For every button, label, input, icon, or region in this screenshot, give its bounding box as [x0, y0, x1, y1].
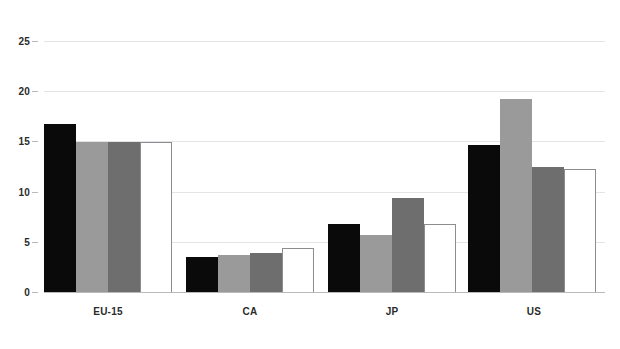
y-tick-mark-10 — [32, 192, 38, 193]
y-tick-mark-25 — [32, 41, 38, 42]
bar-ca-series-3 — [250, 253, 282, 292]
x-label-ca: CA — [243, 306, 258, 317]
bar-eu15-series-4 — [140, 142, 172, 292]
bar-jp-series-4 — [424, 224, 456, 292]
bar-jp-series-3 — [392, 198, 424, 292]
bar-ca-series-4 — [282, 248, 314, 292]
axis-baseline — [44, 292, 605, 293]
bar-eu15-series-1 — [44, 124, 76, 292]
bar-eu15-series-3 — [108, 142, 140, 292]
y-tick-mark-15 — [32, 141, 38, 142]
y-tick-label-10: 10 — [18, 186, 30, 197]
bar-ca-series-1 — [186, 257, 218, 292]
plot-area — [44, 41, 605, 292]
bar-us-series-3 — [532, 167, 564, 293]
bar-jp-series-1 — [328, 224, 360, 292]
y-axis: 25 20 15 10 5 0 — [0, 0, 44, 349]
y-tick-label-25: 25 — [18, 36, 30, 47]
bar-ca-series-2 — [218, 255, 250, 292]
bar-chart: 25 20 15 10 5 0 EU-15 CA JP US — [0, 0, 620, 349]
y-tick-label-15: 15 — [18, 136, 30, 147]
gridline-25 — [44, 41, 605, 42]
bar-us-series-1 — [468, 145, 500, 292]
x-label-jp: JP — [386, 306, 399, 317]
y-tick-label-20: 20 — [18, 86, 30, 97]
y-tick-mark-0 — [32, 292, 38, 293]
bar-jp-series-2 — [360, 235, 392, 292]
x-label-eu15: EU-15 — [93, 306, 122, 317]
gridline-20 — [44, 91, 605, 92]
y-tick-mark-5 — [32, 242, 38, 243]
bar-eu15-series-2 — [76, 142, 108, 292]
bar-us-series-2 — [500, 99, 532, 292]
y-tick-label-5: 5 — [24, 236, 30, 247]
y-tick-mark-20 — [32, 91, 38, 92]
y-tick-label-0: 0 — [24, 287, 30, 298]
bar-us-series-4 — [564, 169, 596, 292]
x-label-us: US — [527, 306, 541, 317]
